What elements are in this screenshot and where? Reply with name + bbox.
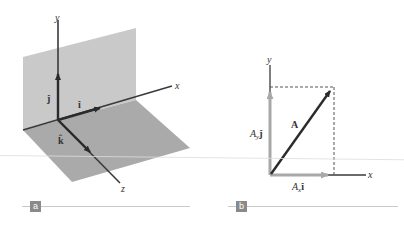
x-component-label: Axî xyxy=(291,181,304,194)
vector-a-arrow xyxy=(271,91,330,174)
b-y-axis-label: y xyxy=(266,54,272,65)
panel-b-diagram: y x A⃗ Ayĵ Axî xyxy=(249,54,373,194)
y-component-label: Ayĵ xyxy=(249,128,263,141)
figure-canvas: y x z ĵ î k̂ y x A⃗ Ayĵ Axî xyxy=(0,0,404,226)
panel-b-badge: b xyxy=(236,201,247,212)
k-hat-label: k̂ xyxy=(58,134,64,146)
y-axis-label: y xyxy=(54,12,60,23)
j-hat-label: ĵ xyxy=(46,93,51,104)
i-hat-label: î xyxy=(77,99,81,110)
x-axis-label: x xyxy=(174,80,180,91)
panel-b-rule xyxy=(228,206,398,207)
panel-a-badge: a xyxy=(30,201,41,212)
b-x-axis-label: x xyxy=(367,169,373,180)
panel-a-diagram: y x z ĵ î k̂ xyxy=(23,12,190,194)
vector-a-label: A⃗ xyxy=(291,119,306,130)
z-axis-label: z xyxy=(120,183,125,194)
panel-a-rule xyxy=(22,206,190,207)
